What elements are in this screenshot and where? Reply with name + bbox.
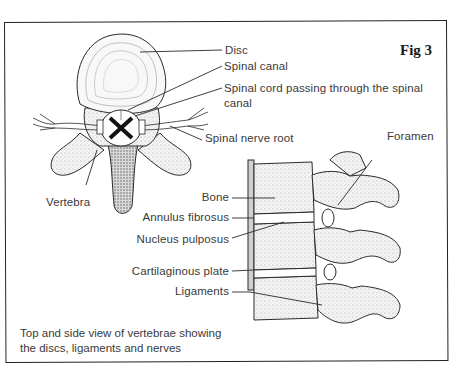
- label-disc: Disc: [225, 44, 248, 56]
- label-nucleus-pulposus: Nucleus pulposus: [137, 233, 229, 245]
- label-bone: Bone: [202, 191, 229, 203]
- caption-line-1: Top and side view of vertebrae showing: [20, 326, 221, 341]
- label-spinal-canal: Spinal canal: [224, 60, 288, 72]
- label-spinal-cord-line2: canal: [224, 97, 252, 109]
- figure-caption: Top and side view of vertebrae showing t…: [20, 326, 221, 356]
- intervertebral-disc-top: [77, 34, 166, 114]
- label-foramen: Foramen: [387, 130, 434, 142]
- label-ligaments: Ligaments: [175, 285, 229, 297]
- label-vertebra: Vertebra: [46, 196, 90, 208]
- label-cartilaginous-plate: Cartilaginous plate: [132, 265, 229, 277]
- label-annulus-fibrosus: Annulus fibrosus: [142, 211, 229, 223]
- label-spinal-nerve-root: Spinal nerve root: [205, 132, 294, 144]
- figure-label: Fig 3: [400, 42, 432, 59]
- side-view-spine: [248, 152, 400, 323]
- caption-line-2: the discs, ligaments and nerves: [20, 341, 221, 356]
- label-spinal-cord-line1: Spinal cord passing through the spinal: [224, 82, 423, 94]
- spinal-cord-top: [101, 110, 141, 146]
